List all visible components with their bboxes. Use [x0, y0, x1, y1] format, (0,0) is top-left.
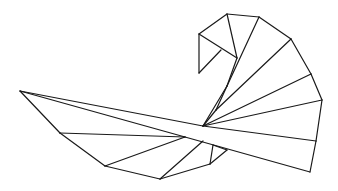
fold-line — [199, 14, 227, 34]
fold-line — [291, 39, 311, 74]
fold-line — [203, 126, 316, 141]
fold-line — [105, 137, 185, 166]
fold-line — [203, 100, 322, 126]
fold-line — [259, 17, 291, 39]
fold-line — [316, 100, 322, 141]
fold-line — [310, 141, 316, 172]
fold-line — [210, 150, 227, 164]
fold-line — [185, 137, 310, 172]
fold-line — [213, 145, 227, 150]
fold-line — [60, 133, 185, 137]
fold-line — [60, 133, 105, 166]
fold-line — [20, 91, 185, 137]
fold-line — [160, 141, 203, 179]
fold-line — [160, 164, 210, 179]
folded-spiral-diagram — [0, 0, 338, 191]
fold-line — [227, 14, 237, 58]
fold-line — [105, 166, 160, 179]
fold-line — [20, 91, 203, 126]
fold-line — [216, 39, 291, 110]
fold-line — [311, 74, 322, 100]
fold-line — [199, 50, 221, 73]
fold-line — [199, 34, 237, 58]
fold-line — [227, 14, 259, 17]
fold-line — [227, 17, 259, 86]
